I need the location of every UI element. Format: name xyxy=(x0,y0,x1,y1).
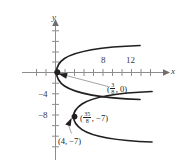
x-axis-arrowhead xyxy=(163,69,170,76)
lower-vertex-label-rest: , −7) xyxy=(92,113,108,123)
upper-vertex-label-rest: , 0) xyxy=(116,84,127,94)
point-4-neg7-leader-arrowhead xyxy=(65,118,72,127)
x-tick-label-12: 12 xyxy=(126,56,135,65)
lower-vertex-point xyxy=(72,114,78,120)
upper-vertex-label: (38, 0) xyxy=(107,82,127,95)
plot-canvas xyxy=(0,0,182,164)
point-4-neg7-label: (4, −7) xyxy=(58,137,81,146)
parabola-figure: x y 8 12 −4 −8 (38, 0) (358, −7) (4, −7) xyxy=(0,0,182,164)
lower-vertex-denominator: 8 xyxy=(83,117,91,124)
y-axis-label: y xyxy=(52,13,56,22)
upper-vertex-leader-arrowhead xyxy=(58,73,68,79)
y-tick-label-neg8: −8 xyxy=(38,111,48,120)
upper-vertex-fraction: 38 xyxy=(110,82,115,95)
upper-vertex-denominator: 8 xyxy=(110,88,115,95)
x-axis-label: x xyxy=(171,67,175,76)
lower-vertex-fraction: 358 xyxy=(83,111,91,124)
x-tick-label-8: 8 xyxy=(101,56,106,65)
lower-vertex-numerator: 35 xyxy=(83,111,91,117)
upper-vertex-leader-line xyxy=(66,76,108,87)
lower-vertex-label: (358, −7) xyxy=(80,111,108,124)
y-tick-label-neg4: −4 xyxy=(38,90,48,99)
